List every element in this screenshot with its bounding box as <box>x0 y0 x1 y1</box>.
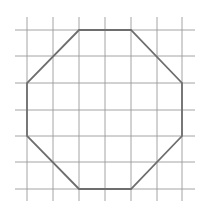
octagon-grid-diagram <box>0 0 206 209</box>
octagon-shape <box>27 30 182 189</box>
grid-lines <box>15 17 195 201</box>
